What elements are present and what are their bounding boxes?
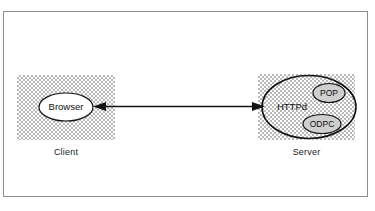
pop-component[interactable]: POP <box>313 84 345 103</box>
httpd-label: HTTPd <box>277 101 307 112</box>
odpc-label: ODPC <box>310 119 335 129</box>
pop-label: POP <box>320 88 338 98</box>
odpc-component[interactable]: ODPC <box>303 115 341 134</box>
diagram-root: Browser HTTPd POP ODPC Client Server <box>0 0 375 211</box>
client-caption: Client <box>17 147 115 158</box>
browser-label: Browser <box>49 101 84 112</box>
server-caption: Server <box>258 147 355 158</box>
browser-node[interactable]: Browser <box>39 93 93 121</box>
